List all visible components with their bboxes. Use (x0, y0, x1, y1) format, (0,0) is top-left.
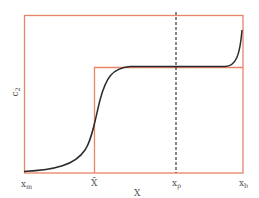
tick-label-xm: xm (21, 179, 32, 191)
concentration-curve (24, 30, 242, 172)
diagram-figure: c2 xm X̄ xp xb X (0, 0, 259, 198)
svg-text:c2: c2 (10, 87, 22, 96)
inner-step-frame (95, 68, 244, 174)
x-axis-label: X (134, 188, 141, 198)
y-axis-label: c2 (10, 87, 22, 96)
tick-label-xb: xb (239, 178, 248, 190)
tick-label-xbar: X̄ (91, 177, 98, 188)
tick-label-xp: xp (172, 178, 181, 190)
outer-frame (25, 16, 244, 174)
